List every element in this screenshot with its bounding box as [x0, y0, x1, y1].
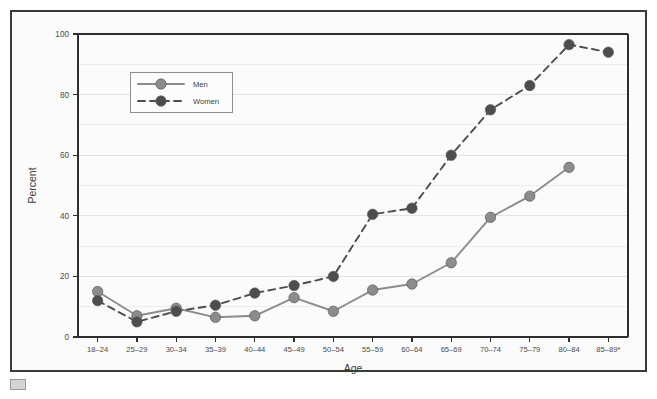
- data-point-marker-men: [250, 311, 260, 321]
- x-axis-ticks-group: 18–2425–2930–3435–3940–4445–4950–5455–59…: [87, 337, 620, 354]
- axis-titles-group: AgePercent: [26, 167, 362, 374]
- x-axis-tick-label: 55–59: [362, 345, 383, 354]
- legend: MenWomen: [130, 72, 232, 112]
- data-point-marker-women: [210, 300, 220, 310]
- data-point-marker-women: [250, 288, 260, 298]
- legend-box: [130, 72, 232, 112]
- y-axis-tick-label: 20: [60, 272, 70, 281]
- x-axis-title: Age: [344, 362, 363, 374]
- data-point-marker-women: [407, 203, 417, 213]
- data-point-marker-women: [92, 295, 102, 305]
- y-axis-tick-label: 80: [60, 91, 70, 100]
- data-point-marker-women: [328, 271, 338, 281]
- y-axis-tick-label: 0: [64, 333, 69, 342]
- data-point-marker-women: [171, 306, 181, 316]
- x-axis-tick-label: 18–24: [87, 345, 108, 354]
- legend-marker-men: [156, 79, 166, 89]
- y-axis-tick-label: 60: [60, 151, 70, 160]
- data-point-marker-women: [132, 317, 142, 327]
- data-point-marker-men: [564, 162, 574, 172]
- x-axis-tick-label: 50–54: [323, 345, 344, 354]
- line-chart-plot: 020406080100 18–2425–2930–3435–3940–4445…: [0, 0, 657, 399]
- x-axis-tick-label: 75–79: [519, 345, 540, 354]
- data-point-marker-women: [603, 47, 613, 57]
- x-axis-tick-label: 25–29: [126, 345, 147, 354]
- y-axis-tick-label: 100: [55, 30, 69, 39]
- data-point-marker-men: [210, 312, 220, 322]
- data-point-marker-men: [367, 285, 377, 295]
- data-point-marker-men: [289, 292, 299, 302]
- data-point-marker-women: [289, 280, 299, 290]
- legend-label-men: Men: [193, 80, 208, 89]
- data-point-marker-men: [328, 306, 338, 316]
- figure-container: 020406080100 18–2425–2930–3435–3940–4445…: [0, 0, 657, 399]
- data-point-marker-women: [525, 80, 535, 90]
- data-point-marker-women: [367, 209, 377, 219]
- x-axis-tick-label: 65–69: [441, 345, 462, 354]
- y-axis-tick-label: 40: [60, 212, 70, 221]
- x-axis-tick-label: 45–49: [284, 345, 305, 354]
- series-line-men: [98, 167, 569, 317]
- x-axis-tick-label: 30–34: [166, 345, 187, 354]
- data-point-marker-men: [407, 279, 417, 289]
- y-axis-title: Percent: [26, 167, 38, 203]
- x-axis-tick-label: 85–89*: [596, 345, 620, 354]
- x-axis-tick-label: 70–74: [480, 345, 501, 354]
- data-point-marker-women: [564, 39, 574, 49]
- data-point-marker-women: [485, 105, 495, 115]
- x-axis-tick-label: 35–39: [205, 345, 226, 354]
- x-axis-tick-label: 40–44: [244, 345, 265, 354]
- data-point-marker-men: [485, 212, 495, 222]
- x-axis-tick-label: 80–84: [559, 345, 580, 354]
- y-axis-ticks-group: 020406080100: [55, 30, 78, 342]
- x-axis-tick-label: 60–64: [401, 345, 422, 354]
- data-point-marker-women: [446, 150, 456, 160]
- data-point-marker-men: [525, 191, 535, 201]
- data-point-marker-men: [446, 258, 456, 268]
- legend-label-women: Women: [193, 97, 219, 106]
- legend-marker-women: [156, 96, 166, 106]
